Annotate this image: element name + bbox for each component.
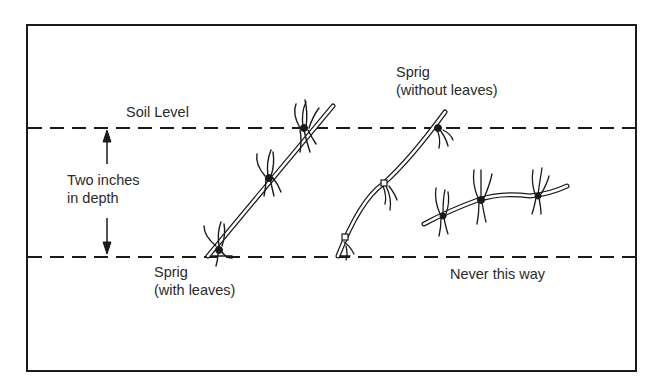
sprig-without-leaves-label-line1: Sprig — [396, 64, 430, 81]
depth-label-line2: in depth — [67, 190, 119, 207]
never-this-way-label: Never this way — [450, 266, 545, 283]
sprig-horizontal-incorrect-drawing — [424, 168, 567, 236]
sprig-without-leaves-label-line2: (without leaves) — [396, 82, 498, 99]
sprig-with-leaves-label-line2: (with leaves) — [154, 282, 235, 299]
sprig-with-leaves-label-line1: Sprig — [154, 264, 188, 281]
soil-level-label: Soil Level — [126, 104, 189, 121]
sprig-without-leaves-drawing — [338, 112, 453, 260]
depth-arrow-down-icon — [103, 218, 111, 254]
depth-label-line1: Two inches — [67, 172, 140, 189]
sprig-with-leaves-drawing — [204, 100, 333, 266]
depth-arrow-up-icon — [103, 130, 111, 164]
